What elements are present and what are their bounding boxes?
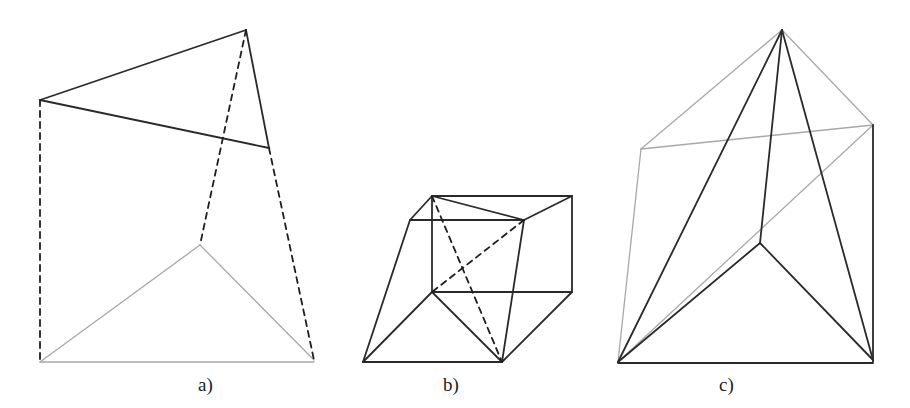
dark-edge [363, 292, 432, 362]
dark-edge [502, 220, 524, 362]
light-edge [618, 149, 641, 362]
label-b: b) [443, 374, 459, 396]
dark-edge [782, 30, 873, 360]
dark-edge [363, 220, 410, 362]
dark-edge [618, 243, 760, 362]
dashed-edge [269, 148, 314, 360]
panel-c [618, 30, 873, 363]
label-a: a) [198, 374, 213, 396]
dark-edge [502, 292, 572, 362]
dark-edge [410, 196, 432, 220]
dark-edge [40, 30, 246, 100]
dark-edge [432, 196, 524, 220]
light-edge [40, 245, 200, 362]
dark-edge [40, 100, 269, 148]
light-edge [641, 125, 873, 149]
dark-edge [246, 30, 269, 148]
light-edge [618, 125, 873, 362]
light-edge [200, 245, 314, 360]
polyhedra-figure: a) b) c) [0, 0, 910, 408]
dashed-edge [200, 30, 246, 245]
light-edge [641, 30, 782, 149]
label-c: c) [719, 374, 734, 396]
dark-edge [618, 30, 782, 362]
panel-a [40, 30, 314, 362]
dark-edge [524, 196, 572, 220]
dark-edge [432, 292, 502, 362]
panel-b [363, 196, 572, 362]
